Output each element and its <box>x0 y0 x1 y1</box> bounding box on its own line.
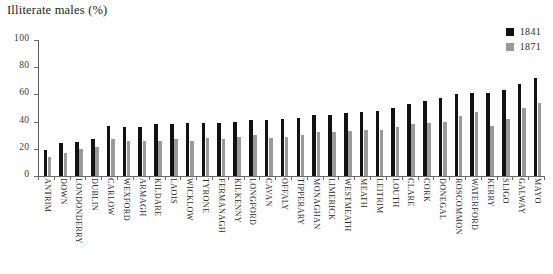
bar-group <box>217 40 225 176</box>
bar-1841 <box>138 127 142 176</box>
bar-group <box>186 40 194 176</box>
bar-1871 <box>490 126 494 176</box>
y-axis-tick-label: 20 <box>19 142 29 152</box>
bar-group <box>360 40 368 176</box>
bar-1871 <box>285 137 289 176</box>
x-axis-tick <box>544 176 545 180</box>
bar-1841 <box>297 118 301 176</box>
y-axis-tick-label: 40 <box>19 115 29 125</box>
x-axis-category-label: FERMANAGH <box>217 178 225 233</box>
bar-1841 <box>154 124 158 176</box>
y-axis-tick: 20 <box>34 149 39 150</box>
x-axis-category-labels: ANTRIMDOWNLONDONDERRYDUBLINCARLOWWEXFORD… <box>38 178 544 272</box>
x-axis-category-label: ANTRIM <box>43 178 51 212</box>
bar-group <box>502 40 510 176</box>
bar-1871 <box>364 130 368 176</box>
bar-1871 <box>158 141 162 176</box>
bar-1841 <box>107 126 111 176</box>
bar-1841 <box>439 98 443 176</box>
y-axis-line <box>38 40 39 176</box>
x-axis-category-label: WATERFORD <box>470 178 478 230</box>
bar-1871 <box>348 131 352 176</box>
legend-swatch-icon <box>506 28 514 36</box>
x-axis-category-label: LONGFORD <box>248 178 256 225</box>
bar-1841 <box>312 115 316 176</box>
bar-group <box>75 40 83 176</box>
bar-1871 <box>253 135 257 176</box>
x-axis-category-label: WESTMEATH <box>343 178 351 232</box>
bar-1841 <box>391 108 395 176</box>
x-axis-category-label: WICKLOW <box>185 178 193 221</box>
x-axis-category-label: DOWN <box>58 178 66 205</box>
bar-group <box>455 40 463 176</box>
bar-group <box>297 40 305 176</box>
x-axis-category-label: CAVAN <box>264 178 272 207</box>
bar-1871 <box>206 138 210 176</box>
bar-1871 <box>506 119 510 176</box>
x-axis-category-label: CLARE <box>406 178 414 207</box>
bar-group <box>202 40 210 176</box>
bar-1871 <box>64 153 68 176</box>
bar-1841 <box>470 93 474 176</box>
bar-group <box>486 40 494 176</box>
bar-1871 <box>317 132 321 176</box>
bar-1841 <box>376 111 380 176</box>
x-axis-category-label: CARLOW <box>106 178 114 216</box>
x-axis-category-label: MEATH <box>359 178 367 208</box>
bar-1871 <box>111 139 115 176</box>
illiterate-males-bar-chart: Illiterate males (%) 18411871 0204060801… <box>0 0 553 274</box>
bar-group <box>376 40 384 176</box>
bar-group <box>391 40 399 176</box>
bar-1841 <box>486 93 490 176</box>
y-axis-tick: 80 <box>34 67 39 68</box>
bar-1841 <box>407 104 411 176</box>
bar-group <box>439 40 447 176</box>
bar-group <box>107 40 115 176</box>
x-axis-category-label: ROSCOMMON <box>454 178 462 235</box>
bar-1871 <box>443 122 447 176</box>
legend-entry: 1841 <box>506 27 541 37</box>
bar-1841 <box>518 84 522 176</box>
x-axis-category-label: GALWAY <box>517 178 525 214</box>
bar-group <box>265 40 273 176</box>
bar-1841 <box>534 78 538 176</box>
bar-group <box>344 40 352 176</box>
x-axis-category-label: KILKENNY <box>232 178 240 223</box>
bar-group <box>154 40 162 176</box>
bar-group <box>407 40 415 176</box>
bar-group <box>249 40 257 176</box>
bar-1841 <box>360 112 364 176</box>
bar-1871 <box>380 130 384 176</box>
x-axis-category-label: TYRONE <box>201 178 209 213</box>
bar-1841 <box>170 124 174 176</box>
bar-1841 <box>249 120 253 176</box>
bar-1871 <box>396 127 400 176</box>
x-axis-category-label: OFFALY <box>280 178 288 211</box>
bar-1841 <box>91 139 95 176</box>
bar-group <box>328 40 336 176</box>
x-axis-category-label: LAOIS <box>169 178 177 204</box>
y-axis-tick: 100 <box>34 40 39 41</box>
bar-1871 <box>190 141 194 176</box>
x-axis-category-label: LEITRIM <box>375 178 383 214</box>
bar-1871 <box>301 135 305 176</box>
bar-1841 <box>344 113 348 176</box>
bar-group <box>312 40 320 176</box>
bar-1871 <box>174 139 178 176</box>
bar-1871 <box>95 147 99 176</box>
bar-1841 <box>423 101 427 176</box>
bar-group <box>423 40 431 176</box>
y-axis-tick: 40 <box>34 122 39 123</box>
x-axis-category-label: CORK <box>422 178 430 202</box>
bar-1871 <box>522 108 526 176</box>
bar-1841 <box>44 150 48 176</box>
x-axis-category-label: DUBLIN <box>90 178 98 211</box>
plot-area: 020406080100 <box>38 40 544 176</box>
bar-group <box>123 40 131 176</box>
bar-group <box>518 40 526 176</box>
chart-title: Illiterate males (%) <box>7 3 107 18</box>
bar-1841 <box>123 127 127 176</box>
bar-1841 <box>59 143 63 176</box>
bar-1871 <box>269 138 273 176</box>
bar-1871 <box>48 157 52 176</box>
